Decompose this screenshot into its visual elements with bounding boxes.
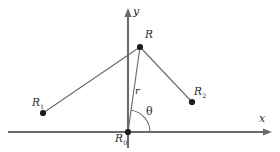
point-label-origin: R0	[115, 133, 127, 144]
point-dot-r	[137, 44, 143, 50]
point-label-origin-main: R	[115, 132, 123, 144]
x-axis-arrowhead	[263, 128, 272, 135]
point-label-r2-main: R	[194, 85, 202, 97]
radius-label-text: r	[135, 85, 140, 96]
point-label-r2: R2	[194, 86, 206, 97]
x-axis-label-text: x	[259, 112, 265, 125]
x-axis-label: x	[259, 113, 265, 124]
y-axis-label-text: y	[133, 5, 139, 18]
segment-r-to-r2	[140, 47, 192, 102]
theta-label-text: θ	[146, 105, 153, 118]
theta-label: θ	[146, 106, 153, 117]
y-axis-label: y	[133, 6, 139, 17]
radius-label: r	[135, 86, 140, 96]
point-label-r: R	[145, 29, 153, 40]
point-label-r1: R1	[32, 97, 44, 108]
y-axis-arrowhead	[124, 8, 131, 17]
polar-vector-diagram: y x R R1 R2 R0 r θ	[0, 0, 280, 152]
point-label-r-main: R	[145, 28, 153, 40]
point-dot-r2	[189, 99, 195, 105]
segment-r-to-r1	[43, 47, 140, 113]
diagram-canvas	[0, 0, 280, 152]
point-label-r2-sub: 2	[202, 92, 206, 99]
point-label-origin-sub: 0	[123, 139, 127, 146]
point-dot-r1	[40, 110, 46, 116]
point-label-r1-main: R	[32, 96, 40, 108]
point-label-r1-sub: 1	[40, 103, 44, 110]
